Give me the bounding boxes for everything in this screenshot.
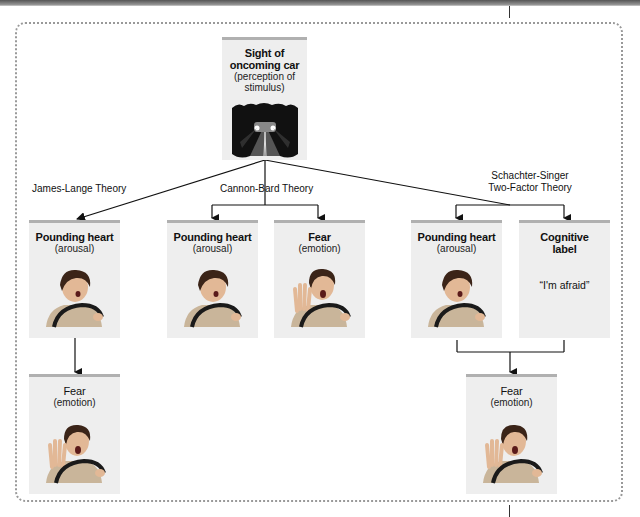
card-subtitle: (arousal) bbox=[29, 243, 120, 254]
frightened-driver-icon bbox=[40, 421, 110, 485]
card-title: Pounding heart bbox=[29, 223, 120, 243]
stimulus-subtitle: (perception of stimulus) bbox=[222, 71, 307, 93]
cannon-bard-fear-card: Fear (emotion) bbox=[274, 220, 365, 338]
card-subtitle: (arousal) bbox=[411, 243, 502, 254]
theory-label-james-lange: James-Lange Theory bbox=[32, 183, 126, 195]
card-subtitle: (emotion) bbox=[466, 397, 557, 408]
card-title: Pounding heart bbox=[411, 223, 502, 243]
card-subtitle: (emotion) bbox=[274, 243, 365, 254]
startled-driver-icon bbox=[178, 265, 248, 329]
theory-label-line1: Schachter-Singer bbox=[470, 170, 590, 182]
frightened-driver-icon bbox=[477, 421, 547, 485]
schachter-singer-arousal-card: Pounding heart (arousal) bbox=[411, 220, 502, 338]
card-subtitle: (emotion) bbox=[29, 397, 120, 408]
card-title: Fear bbox=[274, 223, 365, 243]
car-headlights-icon bbox=[230, 102, 300, 162]
frightened-driver-icon bbox=[285, 265, 355, 329]
card-title: Pounding heart bbox=[167, 223, 258, 243]
startled-driver-icon bbox=[40, 265, 110, 329]
stimulus-card: Sight of oncoming car (perception of sti… bbox=[222, 37, 307, 160]
cannon-bard-arousal-card: Pounding heart (arousal) bbox=[167, 220, 258, 338]
schachter-singer-cognitive-label-card: Cognitive label “I'm afraid” bbox=[519, 220, 610, 338]
card-subtitle: (arousal) bbox=[167, 243, 258, 254]
theory-label-schachter-singer: Schachter-Singer Two-Factor Theory bbox=[470, 170, 590, 194]
stimulus-title: Sight of oncoming car bbox=[222, 40, 307, 71]
startled-driver-icon bbox=[422, 265, 492, 329]
card-title: Fear bbox=[29, 377, 120, 397]
james-lange-fear-card: Fear (emotion) bbox=[29, 374, 120, 494]
card-title-line2: label bbox=[519, 243, 610, 255]
theory-label-line2: Two-Factor Theory bbox=[470, 182, 590, 194]
card-title: Fear bbox=[466, 377, 557, 397]
theory-label-cannon-bard: Cannon-Bard Theory bbox=[220, 183, 313, 195]
card-title: Cognitive bbox=[519, 223, 610, 243]
schachter-singer-fear-card: Fear (emotion) bbox=[466, 374, 557, 494]
cognitive-label-quote: “I'm afraid” bbox=[519, 279, 610, 291]
james-lange-arousal-card: Pounding heart (arousal) bbox=[29, 220, 120, 338]
